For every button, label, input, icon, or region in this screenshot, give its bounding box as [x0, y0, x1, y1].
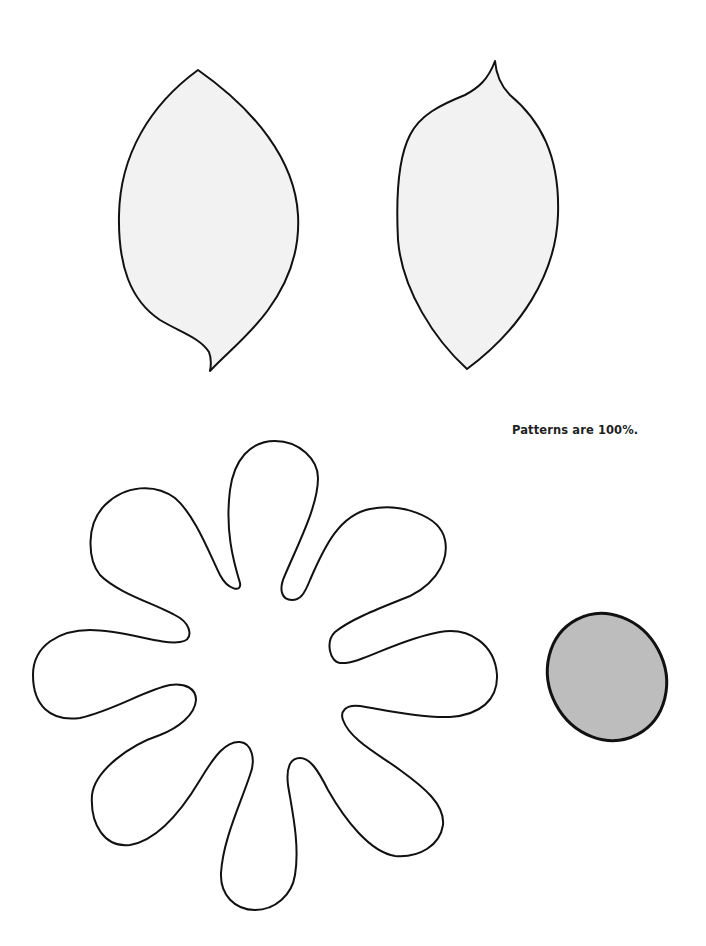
flower-center-pattern: [525, 592, 688, 761]
leaf-left-pattern: [119, 70, 298, 371]
patterns-artwork: [0, 0, 706, 946]
leaf-right-pattern: [397, 61, 558, 369]
flower-pattern: [33, 441, 497, 910]
pattern-sheet: Patterns are 100%.: [0, 0, 706, 946]
pattern-scale-note: Patterns are 100%.: [512, 423, 638, 437]
